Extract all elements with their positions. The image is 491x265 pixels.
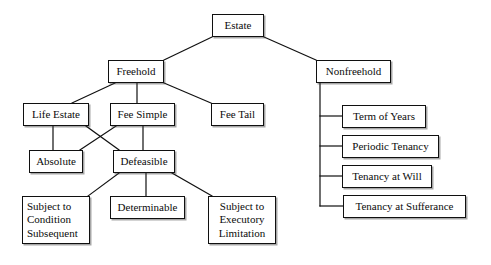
node-label-term-of-years: Term of Years bbox=[353, 110, 415, 124]
edge-freehold-to-life-estate bbox=[72, 83, 115, 103]
node-sel: Subject to Executory Limitation bbox=[208, 196, 276, 244]
node-label-absolute: Absolute bbox=[36, 155, 76, 169]
edge-life-estate-to-defeasible bbox=[86, 126, 119, 150]
edge-estate-to-freehold bbox=[164, 37, 212, 60]
edge-estate-to-nonfreehold bbox=[264, 37, 316, 60]
node-label-fee-simple: Fee Simple bbox=[118, 108, 168, 122]
node-freehold: Freehold bbox=[108, 60, 164, 83]
node-absolute: Absolute bbox=[29, 150, 83, 173]
node-defeasible: Defeasible bbox=[113, 150, 175, 173]
node-sufferance: Tenancy at Sufferance bbox=[343, 195, 466, 218]
node-estate: Estate bbox=[212, 14, 264, 37]
node-label-defeasible: Defeasible bbox=[120, 155, 167, 169]
node-life-estate: Life Estate bbox=[23, 103, 89, 126]
node-label-at-will: Tenancy at Will bbox=[352, 170, 421, 184]
estate-classification-diagram: EstateFreeholdNonfreeholdLife EstateFee … bbox=[0, 0, 491, 265]
node-label-sufferance: Tenancy at Sufferance bbox=[356, 200, 454, 214]
edge-defeasible-to-sel bbox=[172, 173, 212, 196]
edge-freehold-to-fee-tail bbox=[164, 83, 211, 103]
node-determinable: Determinable bbox=[110, 196, 185, 219]
edge-defeasible-to-scs bbox=[88, 173, 119, 196]
node-fee-simple: Fee Simple bbox=[110, 103, 175, 126]
node-label-periodic: Periodic Tenancy bbox=[352, 140, 428, 154]
node-label-determinable: Determinable bbox=[118, 201, 178, 215]
node-nonfreehold: Nonfreehold bbox=[316, 60, 391, 83]
edge-fee-simple-to-absolute bbox=[80, 126, 116, 150]
node-label-scs: Subject to Condition Subsequent bbox=[27, 200, 78, 241]
node-label-life-estate: Life Estate bbox=[32, 108, 80, 122]
node-label-estate: Estate bbox=[225, 19, 252, 33]
node-label-fee-tail: Fee Tail bbox=[220, 108, 255, 122]
node-term-of-years: Term of Years bbox=[342, 105, 426, 128]
node-label-freehold: Freehold bbox=[116, 65, 155, 79]
node-periodic: Periodic Tenancy bbox=[342, 135, 439, 158]
node-fee-tail: Fee Tail bbox=[211, 103, 264, 126]
node-label-nonfreehold: Nonfreehold bbox=[326, 65, 382, 79]
node-at-will: Tenancy at Will bbox=[342, 165, 432, 188]
node-scs: Subject to Condition Subsequent bbox=[22, 196, 90, 244]
node-label-sel: Subject to Executory Limitation bbox=[219, 200, 265, 241]
